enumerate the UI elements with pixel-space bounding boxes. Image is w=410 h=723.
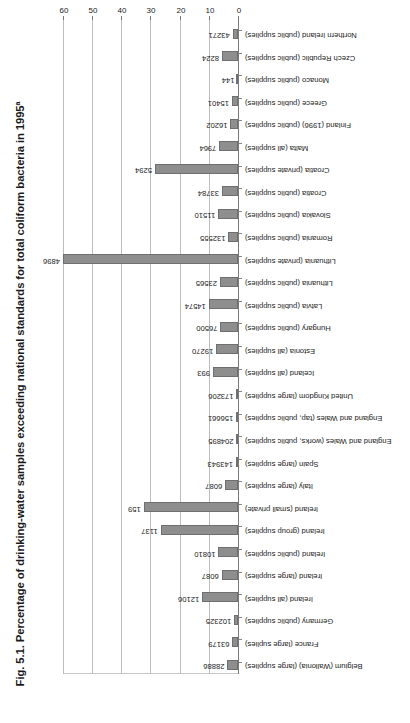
bar-row: Ireland (small private)159 xyxy=(63,494,239,517)
chart-plot: Belgium (Wallonia) (large supplies)28886… xyxy=(0,0,410,723)
bar-row: Lithuania (private supplies)4896 xyxy=(63,246,239,269)
bar xyxy=(219,141,238,151)
category-tick xyxy=(239,256,242,257)
bar-sample-size-label: 23565 xyxy=(196,279,217,288)
category-tick xyxy=(239,594,242,595)
bar xyxy=(228,232,238,242)
category-tick xyxy=(239,662,242,663)
bar-row: Northern Ireland (public supplies)43271 xyxy=(63,20,239,43)
bar-sample-size-label: 159 xyxy=(128,505,141,514)
category-tick xyxy=(239,121,242,122)
bar xyxy=(220,277,238,287)
category-label: England and Wales (tap, public supplies) xyxy=(245,414,382,423)
bar-row: Hungary (public supplies)76500 xyxy=(63,313,239,336)
bar xyxy=(236,389,238,399)
bar-row: Iceland (all supplies)993 xyxy=(63,358,239,381)
category-label: Latvia (public supplies) xyxy=(245,302,322,311)
bar-sample-size-label: 156661 xyxy=(208,414,233,423)
category-label: Lithuania (private supplies) xyxy=(245,257,336,266)
category-tick xyxy=(239,414,242,415)
category-tick xyxy=(239,188,242,189)
category-label: Finland (1996) (public supplies) xyxy=(245,121,351,130)
bar-row: Slovakia (public supplies)11510 xyxy=(63,200,239,223)
bar xyxy=(221,322,239,332)
x-tick-label: 10 xyxy=(195,6,225,15)
category-label: Estonia (all supplies) xyxy=(245,347,315,356)
bar xyxy=(155,164,238,174)
bar-row: Italy (large supplies)6087 xyxy=(63,471,239,494)
bar-row: Romania (public supplies)132555 xyxy=(63,223,239,246)
category-label: Italy (large supplies) xyxy=(245,482,313,491)
category-tick xyxy=(239,233,242,234)
category-label: Greece (public supplies) xyxy=(245,99,327,108)
bar xyxy=(234,615,238,625)
bar-sample-size-label: 76500 xyxy=(196,324,217,333)
category-tick xyxy=(239,346,242,347)
bar-row: Germany (public supplies)102325 xyxy=(63,606,239,629)
bar-row: United Kingdom (large supplies)173206 xyxy=(63,381,239,404)
category-tick xyxy=(239,436,242,437)
bar-sample-size-label: 6087 xyxy=(205,482,222,491)
bar-sample-size-label: 15401 xyxy=(208,99,229,108)
bar-row: Belgium (Wallonia) (large supplies)28886 xyxy=(63,651,239,674)
category-label: Hungary (public supplies) xyxy=(245,324,331,333)
category-label: Slovakia (public supplies) xyxy=(245,211,331,220)
bar-row: Ireland (all supplies)12106 xyxy=(63,584,239,607)
bar-sample-size-label: 132555 xyxy=(200,234,225,243)
bar xyxy=(218,547,238,557)
bar-row: Croatia (public supplies)33784 xyxy=(63,178,239,201)
bar-row: Lithuania (public supplies)23565 xyxy=(63,268,239,291)
category-label: Ireland (public supplies) xyxy=(245,550,325,559)
bar-row: England and Wales (tap, public supplies)… xyxy=(63,403,239,426)
bar xyxy=(225,480,238,490)
bar-sample-size-label: 1137 xyxy=(141,527,157,536)
bar-row: Spain (large supplies)143943 xyxy=(63,449,239,472)
category-tick xyxy=(239,526,242,527)
bar-sample-size-label: 28886 xyxy=(203,663,224,672)
bar xyxy=(228,660,239,670)
bar-sample-size-label: 173206 xyxy=(208,392,233,401)
category-tick xyxy=(239,278,242,279)
category-tick xyxy=(239,166,242,167)
bar-sample-size-label: 12106 xyxy=(178,595,199,604)
bar xyxy=(209,299,238,309)
category-tick xyxy=(239,639,242,640)
category-label: Iceland (all supplies) xyxy=(245,369,314,378)
category-label: England and Wales (works, public supplie… xyxy=(245,437,392,446)
category-tick xyxy=(239,549,242,550)
category-tick xyxy=(239,301,242,302)
category-label: Croatia (public supplies) xyxy=(245,189,326,198)
x-tick-label: 50 xyxy=(78,6,108,15)
bar-sample-size-label: 11510 xyxy=(195,211,216,220)
category-tick xyxy=(239,369,242,370)
category-tick xyxy=(239,98,242,99)
category-label: Northern Ireland (public supplies) xyxy=(245,31,357,40)
bar xyxy=(232,96,238,106)
category-label: Ireland (group supplies) xyxy=(245,527,325,536)
bar xyxy=(233,29,238,39)
x-tick-label: 60 xyxy=(49,6,79,15)
category-tick xyxy=(239,459,242,460)
bar-sample-size-label: 43271 xyxy=(209,31,230,40)
bar-sample-size-label: 993 xyxy=(197,369,210,378)
bar xyxy=(213,367,238,377)
category-tick xyxy=(239,617,242,618)
category-tick xyxy=(239,391,242,392)
bar xyxy=(236,74,238,84)
category-label: Ireland (all supplies) xyxy=(245,595,313,604)
bar-row: France (large suplies)63179 xyxy=(63,629,239,652)
category-label: Monaco (public supplies) xyxy=(245,76,329,85)
bar xyxy=(161,525,238,535)
bar xyxy=(236,457,238,467)
bar xyxy=(202,592,238,602)
category-label: Croatia (private supplies) xyxy=(245,166,329,175)
bar xyxy=(222,51,238,61)
category-label: France (large suplies) xyxy=(245,640,318,649)
category-tick xyxy=(239,323,242,324)
category-label: Belgium (Wallonia) (large supplies) xyxy=(245,663,362,672)
x-tick-label: 20 xyxy=(166,6,196,15)
bar xyxy=(232,637,238,647)
bar-sample-size-label: 14574 xyxy=(185,302,206,311)
bar-sample-size-label: 4896 xyxy=(43,257,60,266)
bar-sample-size-label: 144 xyxy=(222,76,235,85)
